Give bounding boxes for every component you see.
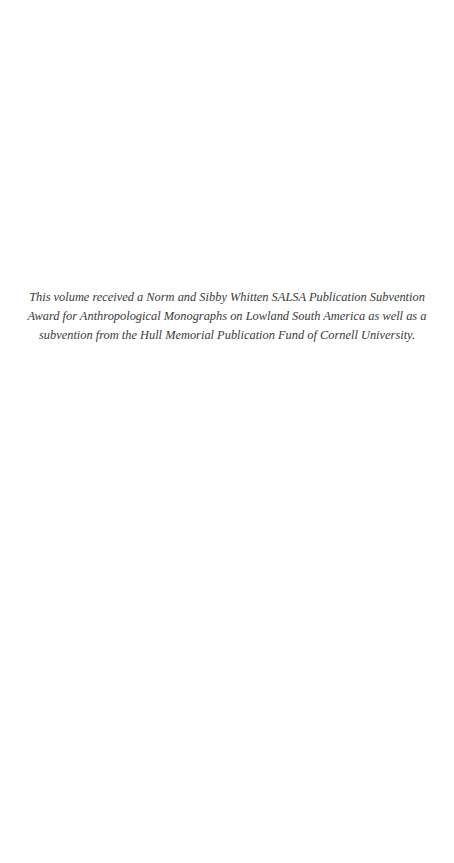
subvention-acknowledgment: This volume received a Norm and Sibby Wh…	[0, 288, 454, 345]
acknowledgment-line-3: subvention from the Hull Memorial Public…	[0, 326, 454, 345]
book-page: This volume received a Norm and Sibby Wh…	[0, 0, 454, 863]
acknowledgment-line-2: Award for Anthropological Monographs on …	[0, 307, 454, 326]
acknowledgment-line-1: This volume received a Norm and Sibby Wh…	[0, 288, 454, 307]
